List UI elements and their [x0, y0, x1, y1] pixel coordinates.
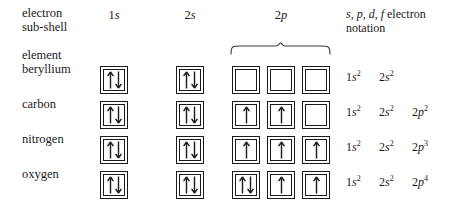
spin-down-arrow-icon: [191, 176, 198, 194]
spin-up-arrow-icon: [278, 176, 285, 194]
orbital-diagram: electron sub-shell element s, p, d, f el…: [0, 0, 449, 208]
spin-up-arrow-icon: [278, 106, 285, 124]
orbital-box-2s-carbon: [176, 101, 204, 129]
notation-term: 2p2: [412, 105, 428, 119]
notation-electron-count: 2: [390, 69, 394, 78]
orbital-box-2p1-oxygen: [232, 171, 260, 199]
orbital-box-spins: [268, 137, 294, 163]
spin-up-arrow-icon: [243, 106, 250, 124]
spin-down-arrow-icon: [115, 141, 122, 159]
notation-term: 1s2: [346, 175, 379, 189]
notation-term: 2s2: [379, 175, 412, 189]
spin-down-arrow-icon: [115, 71, 122, 89]
spin-up-arrow-icon: [107, 141, 114, 159]
column-header-1s: 1s: [94, 8, 134, 22]
orbital-box-spins: [268, 172, 294, 198]
electron-notation-carbon: 1s22s22p2: [346, 105, 428, 119]
spin-up-arrow-icon: [239, 176, 246, 194]
orbital-box-1s-beryllium: [100, 66, 128, 94]
notation-electron-count: 2: [357, 104, 361, 113]
orbital-box-2p1-nitrogen: [232, 136, 260, 164]
spin-down-arrow-icon: [115, 176, 122, 194]
column-header-orbital-letter: s: [115, 8, 120, 22]
orbital-box-spins: [177, 67, 203, 93]
notation-header-italic-part: s, p, d, f: [346, 7, 384, 21]
electron-notation-nitrogen: 1s22s22p3: [346, 140, 428, 154]
element-label-nitrogen: nitrogen: [22, 132, 64, 146]
spin-up-arrow-icon: [183, 141, 190, 159]
orbital-box-spins: [268, 102, 294, 128]
notation-term: 2p3: [412, 140, 428, 154]
orbital-box-spins: [233, 172, 259, 198]
spin-up-arrow-icon: [313, 176, 320, 194]
notation-term: 1s2: [346, 105, 379, 119]
spin-up-arrow-icon: [313, 141, 320, 159]
orbital-box-2p2-beryllium: [267, 66, 295, 94]
electron-notation-oxygen: 1s22s22p4: [346, 175, 428, 189]
orbital-box-spins: [303, 172, 329, 198]
orbital-box-spins: [233, 137, 259, 163]
spin-up-arrow-icon: [183, 106, 190, 124]
notation-electron-count: 2: [424, 104, 428, 113]
column-header-orbital-letter: s: [191, 8, 196, 22]
notation-electron-count: 4: [424, 174, 428, 183]
orbital-box-spins: [303, 137, 329, 163]
spin-up-arrow-icon: [107, 176, 114, 194]
orbital-box-spins: [177, 102, 203, 128]
column-header-2s: 2s: [170, 8, 210, 22]
notation-term: 2s2: [379, 140, 412, 154]
two-p-grouping-brace: [230, 42, 331, 55]
orbital-box-1s-carbon: [100, 101, 128, 129]
orbital-box-2p3-carbon: [302, 101, 330, 129]
orbital-box-spins: [101, 137, 127, 163]
orbital-box-spins: [177, 137, 203, 163]
orbital-box-spins: [177, 172, 203, 198]
notation-electron-count: 2: [357, 174, 361, 183]
spin-down-arrow-icon: [247, 176, 254, 194]
notation-electron-count: 2: [390, 104, 394, 113]
spin-up-arrow-icon: [278, 141, 285, 159]
orbital-box-1s-nitrogen: [100, 136, 128, 164]
orbital-box-2p3-oxygen: [302, 171, 330, 199]
orbital-box-2p1-carbon: [232, 101, 260, 129]
orbital-box-2p2-oxygen: [267, 171, 295, 199]
orbital-box-spins: [101, 67, 127, 93]
element-label-oxygen: oxygen: [22, 167, 59, 181]
element-column-header: element: [22, 48, 62, 62]
spin-up-arrow-icon: [243, 141, 250, 159]
orbital-box-2s-oxygen: [176, 171, 204, 199]
notation-electron-count: 3: [424, 139, 428, 148]
notation-term: 2s2: [379, 105, 412, 119]
spin-down-arrow-icon: [191, 106, 198, 124]
orbital-box-2s-nitrogen: [176, 136, 204, 164]
orbital-box-spins: [101, 102, 127, 128]
notation-electron-count: 2: [390, 139, 394, 148]
orbital-box-2s-beryllium: [176, 66, 204, 94]
orbital-box-1s-oxygen: [100, 171, 128, 199]
spin-up-arrow-icon: [107, 71, 114, 89]
orbital-box-2p1-beryllium: [232, 66, 260, 94]
column-header-orbital-letter: p: [281, 8, 287, 22]
spin-up-arrow-icon: [183, 71, 190, 89]
notation-column-header: s, p, d, f electron notation: [346, 7, 449, 35]
spin-up-arrow-icon: [183, 176, 190, 194]
notation-term: 1s2: [346, 140, 379, 154]
orbital-box-2p3-nitrogen: [302, 136, 330, 164]
column-header-2p: 2p: [261, 8, 301, 22]
orbital-box-2p2-nitrogen: [267, 136, 295, 164]
orbital-box-2p3-beryllium: [302, 66, 330, 94]
electron-notation-beryllium: 1s22s2: [346, 70, 394, 84]
orbital-box-spins: [101, 172, 127, 198]
orbital-box-spins: [233, 102, 259, 128]
spin-down-arrow-icon: [191, 141, 198, 159]
notation-term: 2s2: [379, 70, 394, 84]
spin-down-arrow-icon: [115, 106, 122, 124]
notation-electron-count: 2: [357, 139, 361, 148]
orbital-box-2p2-carbon: [267, 101, 295, 129]
notation-term: 2p4: [412, 175, 428, 189]
element-label-carbon: carbon: [22, 97, 56, 111]
spin-down-arrow-icon: [191, 71, 198, 89]
notation-electron-count: 2: [390, 174, 394, 183]
notation-term: 1s2: [346, 70, 379, 84]
notation-electron-count: 2: [357, 69, 361, 78]
